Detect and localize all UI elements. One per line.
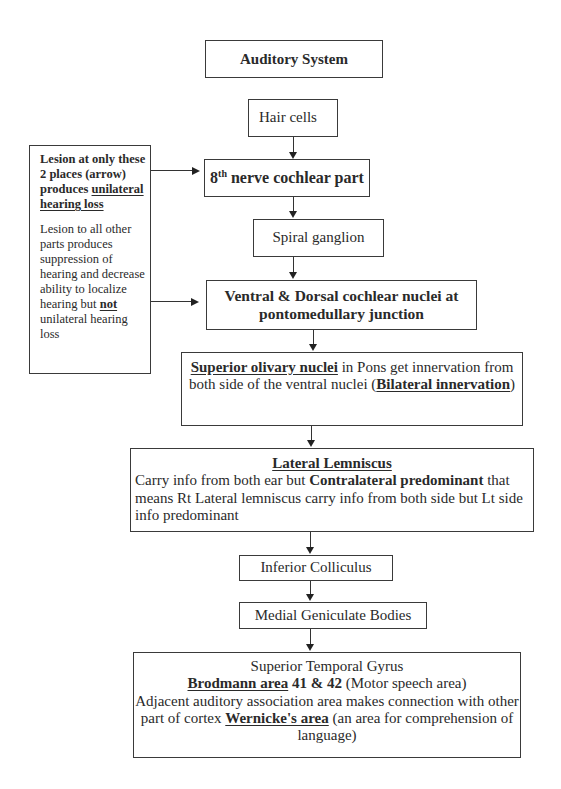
stg-association: Adjacent auditory association area makes…	[134, 693, 520, 745]
lemniscus-body: Carry info from both ear but Contralater…	[131, 472, 533, 524]
lemniscus-heading: Lateral Lemniscus	[131, 455, 533, 472]
note-p2-text2: unilateral hearing loss	[40, 312, 128, 341]
olivary-close: )	[510, 376, 515, 392]
arrow-down-icon	[289, 152, 297, 159]
node-spiral-ganglion: Spiral ganglion	[253, 219, 384, 257]
lemniscus-text1: Carry info from both ear but	[135, 472, 309, 488]
connector-line	[313, 330, 314, 345]
node-superior-olivary: Superior olivary nuclei in Pons get inne…	[181, 352, 523, 426]
node-lateral-lemniscus: Lateral Lemniscus Carry info from both e…	[130, 448, 534, 532]
arrow-down-icon	[306, 594, 314, 601]
nerve-label: nerve cochlear part	[227, 169, 364, 186]
stg-brodmann-numbers: 41 & 42	[288, 675, 342, 691]
node-superior-temporal-gyrus: Superior Temporal Gyrus Brodmann area 41…	[133, 652, 521, 758]
node-medial-geniculate: Medial Geniculate Bodies	[239, 602, 427, 629]
lesion-note: Lesion at only these 2 places (arrow) pr…	[29, 145, 151, 374]
connector-line	[310, 581, 311, 595]
connector-line	[293, 137, 294, 153]
cochlear-nuclei-line2: pontomedullary junction	[207, 305, 476, 323]
node-hair-cells: Hair cells	[248, 99, 338, 137]
node-8th-nerve-cochlear: 8th nerve cochlear part	[204, 159, 370, 197]
note-connector-line	[151, 301, 195, 302]
olivary-bilateral: Bilateral innervation	[376, 376, 510, 392]
arrow-down-icon	[306, 644, 314, 651]
lemniscus-contralateral: Contralateral predominant	[309, 472, 483, 488]
connector-line	[311, 426, 312, 441]
stg-brodmann-note: (Motor speech area)	[342, 675, 467, 691]
cochlear-nuclei-line1: Ventral & Dorsal cochlear nuclei at	[207, 287, 476, 305]
stg-brodmann-label: Brodmann area	[188, 675, 289, 691]
nerve-suffix: th	[218, 168, 227, 179]
stg-wernicke-note: (an area for comprehension of language)	[297, 710, 513, 743]
stg-wernicke: Wernicke's area	[225, 710, 328, 726]
note-connector-line	[151, 170, 196, 171]
connector-line	[293, 197, 294, 212]
stg-heading: Superior Temporal Gyrus	[134, 658, 520, 675]
arrow-right-icon	[191, 298, 199, 306]
node-cochlear-nuclei: Ventral & Dorsal cochlear nuclei at pont…	[206, 280, 477, 330]
connector-line	[310, 629, 311, 645]
arrow-down-icon	[289, 211, 297, 218]
note-p2-not: not	[100, 297, 117, 311]
note-other-parts: Lesion to all other parts produces suppr…	[40, 222, 146, 342]
stg-brodmann: Brodmann area 41 & 42 (Motor speech area…	[134, 675, 520, 692]
olivary-heading: Superior olivary nuclei	[191, 359, 338, 375]
node-inferior-colliculus: Inferior Colliculus	[239, 555, 393, 581]
nerve-number: 8	[210, 169, 218, 186]
arrow-down-icon	[289, 272, 297, 279]
arrow-down-icon	[309, 344, 317, 351]
connector-line	[293, 257, 294, 273]
diagram-title: Auditory System	[205, 40, 383, 78]
arrow-down-icon	[307, 440, 315, 447]
arrow-right-icon	[192, 167, 200, 175]
note-p2-text1: Lesion to all other parts produces suppr…	[40, 222, 145, 311]
note-unilateral: Lesion at only these 2 places (arrow) pr…	[40, 152, 146, 212]
connector-line	[310, 532, 311, 548]
arrow-down-icon	[306, 547, 314, 554]
